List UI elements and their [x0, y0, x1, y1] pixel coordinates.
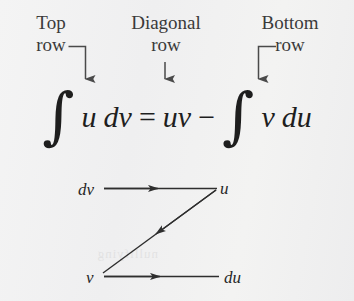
diagram-node-u: u	[220, 179, 229, 199]
diagram-node-du: du	[224, 268, 241, 288]
integration-by-parts-figure: nullifying Top row Diagonal row Bottom r…	[0, 0, 354, 301]
pointer-arrow-bottom-row-icon	[259, 47, 277, 80]
diagram-edge-diagonal-row	[103, 190, 216, 273]
diagram-node-dv: dv	[78, 180, 94, 200]
figure-strokes	[0, 0, 354, 301]
diagram-node-v: v	[86, 268, 94, 288]
pointer-arrow-top-row-icon	[69, 47, 86, 80]
